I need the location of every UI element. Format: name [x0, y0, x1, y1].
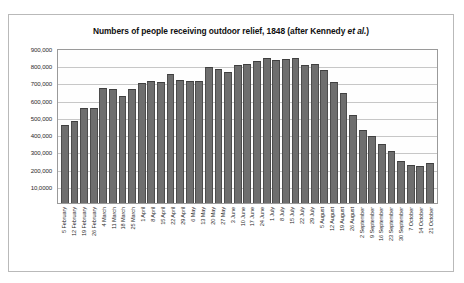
bar — [397, 161, 405, 203]
x-axis-tick: 29 April — [179, 205, 187, 271]
bar — [147, 81, 155, 203]
chart-title-italic: et al. — [348, 26, 367, 36]
bar — [311, 64, 319, 203]
x-axis-tick-label: 23 September — [388, 207, 394, 241]
x-axis-tick: 22 April — [169, 205, 177, 271]
x-axis: 5 February12 February19 February26 Febru… — [57, 205, 438, 271]
plot-area — [57, 49, 438, 204]
y-axis-tick-label: 700,000 — [31, 80, 52, 87]
x-axis-tick: 8 April — [149, 205, 157, 271]
chart-figure: Numbers of people receiving outdoor reli… — [8, 14, 454, 272]
bar — [340, 93, 348, 203]
x-axis-tick: 17 June — [248, 205, 256, 271]
bar — [359, 130, 367, 203]
bar — [253, 61, 261, 203]
bar — [263, 58, 271, 203]
x-axis-tick-label: 29 April — [180, 207, 186, 225]
x-axis-tick-label: 17 June — [249, 207, 255, 226]
bar — [176, 80, 184, 203]
bar — [109, 89, 117, 203]
x-axis-tick-label: 22 April — [170, 207, 176, 225]
y-axis-tick-label: 800,000 — [31, 63, 52, 70]
x-axis-tick: 15 April — [159, 205, 167, 271]
x-axis-tick-label: 7 October — [408, 207, 414, 231]
x-axis-tick-label: 16 September — [378, 207, 384, 241]
x-axis-tick-label: 30 September — [398, 207, 404, 241]
bar — [272, 60, 280, 203]
bar — [407, 165, 415, 203]
bar — [416, 166, 424, 203]
x-axis-tick: 26 February — [90, 205, 98, 271]
chart-title-prefix: Numbers of people receiving outdoor reli… — [93, 26, 348, 36]
x-axis-tick: 11 March — [110, 205, 118, 271]
bar — [61, 125, 69, 203]
x-axis-tick: 1 July — [268, 205, 276, 271]
x-axis-tick: 14 October — [417, 205, 425, 271]
x-axis-tick: 26 August — [348, 205, 356, 271]
x-axis-tick: 21 October — [427, 205, 435, 271]
x-axis-tick-label: 19 August — [339, 207, 345, 231]
x-axis-tick-label: 1 July — [269, 207, 275, 221]
x-axis-tick-label: 25 March — [130, 207, 136, 230]
x-axis-tick-label: 5 August — [319, 207, 325, 228]
bar — [128, 89, 136, 203]
bar — [119, 96, 127, 203]
x-axis-tick: 3 June — [229, 205, 237, 271]
x-axis-tick: 12 February — [70, 205, 78, 271]
bar — [99, 88, 107, 203]
bar — [426, 163, 434, 203]
x-axis-tick: 23 September — [387, 205, 395, 271]
x-axis-tick-label: 2 September — [359, 207, 365, 238]
bar — [90, 108, 98, 203]
x-axis-tick-label: 27 May — [220, 207, 226, 225]
bar — [80, 108, 88, 203]
bar — [71, 121, 79, 203]
x-axis-tick: 20 May — [209, 205, 217, 271]
x-axis-tick-label: 12 February — [71, 207, 77, 236]
x-axis-tick: 9 September — [367, 205, 375, 271]
x-axis-tick-label: 11 March — [111, 207, 117, 229]
x-axis-tick-label: 14 October — [418, 207, 424, 234]
x-axis-tick: 10 June — [238, 205, 246, 271]
x-axis-tick-label: 18 March — [120, 207, 126, 230]
x-axis-tick: 2 September — [358, 205, 366, 271]
x-axis-tick: 19 August — [338, 205, 346, 271]
x-axis-tick: 27 May — [219, 205, 227, 271]
x-axis-tick-label: 6 May — [190, 207, 196, 222]
bar — [292, 58, 300, 203]
x-axis-tick-label: 5 February — [61, 207, 67, 233]
x-axis-tick-label: 15 July — [289, 207, 295, 224]
bar — [224, 72, 232, 203]
y-axis-tick-label: 300,000 — [31, 149, 52, 156]
x-axis-tick-label: 29 July — [309, 207, 315, 224]
x-axis-tick: 8 July — [278, 205, 286, 271]
bar — [368, 136, 376, 203]
x-axis-tick: 13 May — [199, 205, 207, 271]
bar — [157, 82, 165, 203]
x-axis-tick: 19 February — [80, 205, 88, 271]
bar — [378, 144, 386, 203]
x-axis-tick: 7 October — [407, 205, 415, 271]
x-axis-tick-label: 20 May — [210, 207, 216, 225]
y-axis-tick-label: 200,000 — [31, 166, 52, 173]
x-axis-tick: 5 February — [60, 205, 68, 271]
x-axis-tick-label: 19 February — [81, 207, 87, 236]
y-axis-tick-label: 10,0000 — [31, 183, 52, 190]
x-axis-tick-label: 26 August — [349, 207, 355, 231]
chart-title-suffix: ) — [366, 26, 369, 36]
x-axis-tick: 12 August — [328, 205, 336, 271]
x-axis-tick-label: 4 March — [101, 207, 107, 227]
bar — [243, 64, 251, 204]
x-axis-tick-label: 13 May — [200, 207, 206, 225]
x-axis-tick: 24 June — [258, 205, 266, 271]
x-axis-tick-label: 3 June — [230, 207, 236, 223]
y-axis-tick-label: 500,000 — [31, 114, 52, 121]
x-axis-tick-label: 8 July — [279, 207, 285, 221]
bar — [330, 82, 338, 203]
x-axis-tick: 30 September — [397, 205, 405, 271]
bar — [205, 67, 213, 203]
bar — [349, 115, 357, 203]
x-axis-tick-label: 21 October — [428, 207, 434, 234]
x-axis-tick: 18 March — [119, 205, 127, 271]
bar — [167, 74, 175, 203]
